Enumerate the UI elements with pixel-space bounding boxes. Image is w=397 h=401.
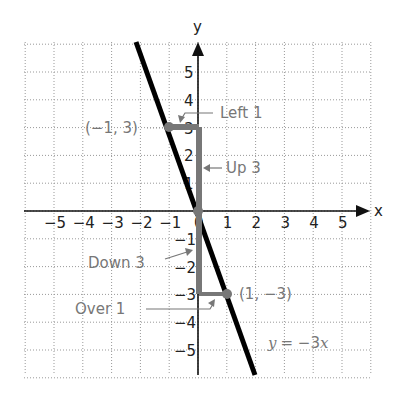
coordinate-plane: x y −5−4−3−2−101234554321−1−2−3−4−5 (−1,… (0, 0, 397, 401)
point-label-1-neg3: (1, −3) (239, 285, 292, 303)
over-1-leader (146, 304, 213, 309)
point-1-neg3 (222, 289, 232, 299)
annotation-up-3: Up 3 (226, 159, 261, 177)
annotation-left-1: Left 1 (220, 104, 263, 122)
point-origin (193, 206, 203, 216)
up-3-arrow-icon (203, 164, 210, 172)
y-tick-label: 5 (184, 64, 194, 82)
y-tick-label: −3 (174, 286, 196, 304)
y-tick-label: −1 (174, 231, 196, 249)
y-tick-label: 2 (184, 147, 194, 165)
x-axis-label: x (374, 202, 383, 220)
y-tick-label: −5 (174, 342, 196, 360)
x-tick-label: −3 (102, 214, 124, 232)
point-neg1-3 (164, 122, 174, 132)
y-tick-label: −4 (174, 314, 196, 332)
point-label-neg1-3: (−1, 3) (85, 119, 138, 137)
x-tick-label: 1 (223, 214, 233, 232)
x-tick-label: −5 (44, 214, 66, 232)
down-3-arrow-icon (185, 248, 193, 256)
y-axis-arrow-icon (192, 42, 204, 56)
x-tick-label: 2 (252, 214, 262, 232)
y-axis-label: y (193, 18, 202, 36)
annotation-down-3: Down 3 (88, 254, 145, 272)
y-tick-label: −2 (174, 259, 196, 277)
x-tick-label: −4 (73, 214, 95, 232)
equation-label: y= −3x (267, 334, 329, 352)
annotation-over-1: Over 1 (75, 300, 125, 318)
x-tick-label: 4 (309, 214, 319, 232)
x-tick-label: −2 (130, 214, 152, 232)
x-tick-label: 3 (280, 214, 290, 232)
x-tick-label: 5 (338, 214, 348, 232)
x-tick-label: −1 (159, 214, 181, 232)
x-axis-arrow-icon (356, 205, 370, 217)
y-tick-label: 4 (184, 92, 194, 110)
axes: x y (24, 18, 383, 375)
